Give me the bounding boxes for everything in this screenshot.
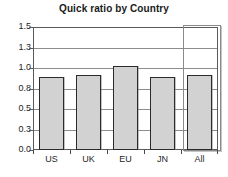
y-axis-tick-label: 1.3 — [1, 42, 31, 52]
x-axis-label-us: US — [32, 154, 72, 164]
y-axis-tick-label: 1.0 — [1, 62, 31, 72]
x-axis-tick-mark — [70, 150, 71, 154]
y-axis-tick-label: 0.3 — [1, 124, 31, 134]
y-axis-tick-label: 0.8 — [1, 83, 31, 93]
x-axis-label-jn: JN — [143, 154, 183, 164]
x-axis: USUKEUJNAll — [33, 150, 218, 177]
x-axis-tick-mark — [217, 150, 218, 154]
y-axis-tick-label: 0.0 — [1, 144, 31, 154]
x-axis-tick-mark — [107, 150, 108, 154]
y-axis: 1.51.31.00.80.50.30.0 — [0, 27, 31, 150]
y-axis-tick-label: 0.5 — [1, 103, 31, 113]
x-axis-tick-mark — [181, 150, 182, 154]
bar-us[interactable] — [39, 77, 64, 150]
x-axis-label-all: All — [180, 154, 220, 164]
chart-title: Quick ratio by Country — [0, 3, 228, 14]
x-axis-tick-mark — [144, 150, 145, 154]
bar-uk[interactable] — [76, 75, 101, 150]
x-axis-label-uk: UK — [69, 154, 109, 164]
y-axis-tick-label: 1.5 — [1, 21, 31, 31]
highlight-selection-box[interactable] — [183, 25, 221, 151]
bar-chart[interactable]: Quick ratio by Country 1.51.31.00.80.50.… — [0, 0, 228, 177]
x-axis-label-eu: EU — [106, 154, 146, 164]
x-axis-tick-mark — [33, 150, 34, 154]
bar-eu[interactable] — [113, 66, 138, 150]
bar-jn[interactable] — [150, 77, 175, 150]
